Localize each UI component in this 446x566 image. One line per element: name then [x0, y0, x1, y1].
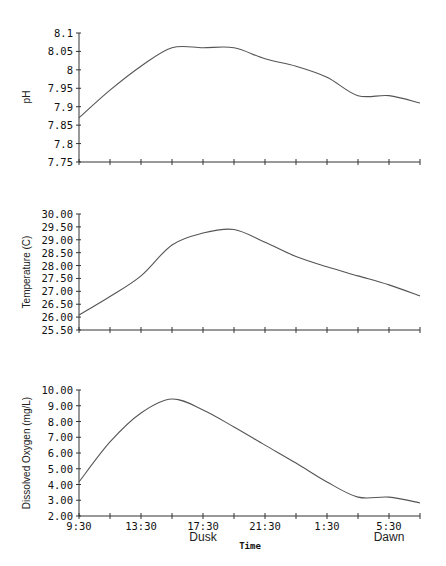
data-line	[79, 399, 420, 503]
x-tick-label: 13:30	[125, 520, 157, 532]
y-tick-label: 7.85	[48, 119, 73, 131]
chart-figure: 7.757.87.857.97.9588.058.1pH 25.5026.002…	[0, 0, 446, 566]
y-tick-label: 3.00	[48, 494, 73, 506]
ph-panel: 7.757.87.857.97.9588.058.1pH	[21, 27, 420, 168]
x-tick-label: 9:30	[66, 520, 91, 532]
y-tick-label: 7.75	[48, 156, 73, 168]
x-tick-label: 21:30	[249, 520, 281, 532]
dusk-label: Dusk	[189, 530, 217, 544]
y-tick-label: 6.00	[48, 447, 73, 459]
y-tick-label: 25.50	[41, 324, 73, 336]
y-tick-label: 7.00	[48, 431, 73, 443]
y-tick-label: 5.00	[48, 463, 73, 475]
data-line	[79, 229, 420, 315]
y-tick-label: 7.8	[54, 138, 73, 150]
y-tick-label: 10.00	[41, 384, 73, 396]
y-tick-label: 7.9	[54, 101, 73, 113]
y-axis-title: Dissolved Oxygen (mg/L)	[21, 397, 32, 509]
y-axis-title: pH	[21, 91, 32, 104]
y-tick-label: 27.50	[41, 272, 73, 284]
y-tick-label: 30.00	[41, 208, 73, 220]
y-tick-label: 26.00	[41, 311, 73, 323]
y-tick-label: 8	[67, 64, 73, 76]
y-tick-label: 29.00	[41, 234, 73, 246]
x-axis-title: Time	[239, 541, 261, 551]
y-tick-label: 9.00	[48, 400, 73, 412]
dissolved-oxygen-panel: 2.003.004.005.006.007.008.009.0010.009:3…	[21, 384, 420, 532]
y-tick-label: 28.50	[41, 247, 73, 259]
y-tick-label: 28.00	[41, 260, 73, 272]
y-tick-label: 27.00	[41, 285, 73, 297]
y-tick-label: 7.95	[48, 82, 73, 94]
y-tick-label: 26.50	[41, 298, 73, 310]
data-line	[79, 46, 420, 117]
y-tick-label: 4.00	[48, 479, 73, 491]
temperature-panel: 25.5026.0026.5027.0027.5028.0028.5029.00…	[21, 208, 420, 336]
y-tick-label: 8.05	[48, 45, 73, 57]
y-axis-title: Temperature (C)	[21, 236, 32, 309]
dawn-label: Dawn	[374, 530, 405, 544]
y-tick-label: 8.00	[48, 416, 73, 428]
x-tick-label: 1:30	[314, 520, 339, 532]
y-tick-label: 29.50	[41, 221, 73, 233]
y-tick-label: 8.1	[54, 27, 73, 39]
